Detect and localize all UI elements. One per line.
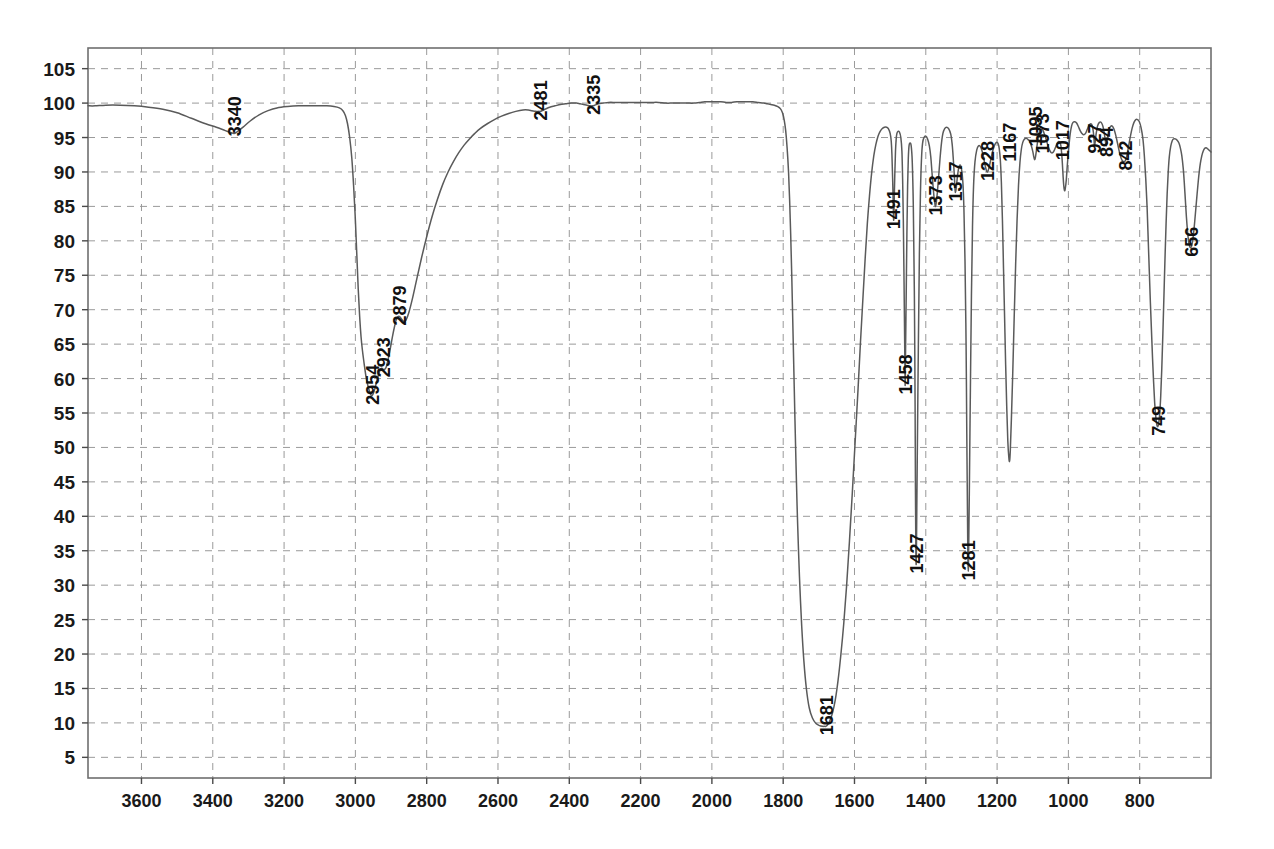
x-tick-label: 1200 xyxy=(977,791,1017,811)
peak-label: 842 xyxy=(1116,141,1136,171)
x-tick-label: 2600 xyxy=(478,791,518,811)
spectrum-canvas: 5101520253035404550556065707580859095100… xyxy=(0,0,1274,849)
y-tick-label: 60 xyxy=(54,369,75,390)
y-tick-label: 90 xyxy=(54,162,75,183)
ir-spectrum-figure: 5101520253035404550556065707580859095100… xyxy=(0,0,1274,849)
y-tick-label: 70 xyxy=(54,300,75,321)
peak-label: 1228 xyxy=(978,141,998,181)
x-axis-tick-labels: 3600340032003000280026002400220020001800… xyxy=(121,791,1154,811)
peak-label: 749 xyxy=(1149,406,1169,436)
y-tick-label: 75 xyxy=(54,265,76,286)
y-tick-label: 65 xyxy=(54,334,76,355)
peak-label: 2923 xyxy=(374,337,394,377)
peak-label: 1681 xyxy=(817,695,837,735)
y-tick-label: 20 xyxy=(54,644,75,665)
y-axis-tick-labels: 5101520253035404550556065707580859095100… xyxy=(43,59,75,769)
peak-annotation-labels: 3340295429232879248123351681149114581427… xyxy=(225,75,1202,736)
peak-label: 894 xyxy=(1097,127,1117,157)
peak-label: 2879 xyxy=(390,286,410,326)
x-tick-label: 1000 xyxy=(1048,791,1088,811)
x-tick-label: 1800 xyxy=(763,791,803,811)
y-tick-label: 100 xyxy=(43,93,75,114)
x-tick-label: 3000 xyxy=(335,791,375,811)
peak-label: 1491 xyxy=(884,189,904,229)
peak-label: 1017 xyxy=(1053,120,1073,160)
x-tick-label: 1400 xyxy=(906,791,946,811)
y-tick-label: 40 xyxy=(54,506,75,527)
y-tick-label: 105 xyxy=(43,59,75,80)
grid-layer xyxy=(88,48,1211,778)
x-tick-label: 3600 xyxy=(121,791,161,811)
y-tick-label: 5 xyxy=(64,747,75,768)
peak-label: 1073 xyxy=(1033,113,1053,153)
y-tick-label: 50 xyxy=(54,437,75,458)
y-tick-label: 30 xyxy=(54,575,75,596)
x-tick-label: 2800 xyxy=(407,791,447,811)
y-tick-label: 10 xyxy=(54,713,75,734)
y-tick-label: 55 xyxy=(54,403,76,424)
peak-label: 2335 xyxy=(584,75,604,115)
x-tick-label: 1600 xyxy=(834,791,874,811)
peak-label: 1458 xyxy=(896,354,916,394)
peak-label: 1427 xyxy=(907,533,927,573)
x-tick-label: 2200 xyxy=(621,791,661,811)
peak-label: 1317 xyxy=(946,162,966,202)
y-tick-label: 85 xyxy=(54,196,76,217)
y-tick-label: 15 xyxy=(54,678,76,699)
y-tick-label: 45 xyxy=(54,472,76,493)
peak-label: 1373 xyxy=(926,175,946,215)
y-tick-label: 80 xyxy=(54,231,75,252)
peak-label: 1281 xyxy=(959,540,979,580)
x-tick-label: 2000 xyxy=(692,791,732,811)
y-tick-label: 25 xyxy=(54,610,76,631)
y-tick-label: 95 xyxy=(54,128,76,149)
spectrum-trace xyxy=(88,102,1211,727)
x-tick-label: 2400 xyxy=(549,791,589,811)
peak-label: 3340 xyxy=(225,96,245,136)
y-tick-label: 35 xyxy=(54,541,76,562)
x-tick-label: 3200 xyxy=(264,791,304,811)
peak-label: 656 xyxy=(1182,227,1202,257)
peak-label: 1167 xyxy=(1000,123,1020,162)
x-tick-label: 800 xyxy=(1125,791,1155,811)
peak-label: 2481 xyxy=(531,80,551,120)
x-tick-label: 3400 xyxy=(193,791,233,811)
